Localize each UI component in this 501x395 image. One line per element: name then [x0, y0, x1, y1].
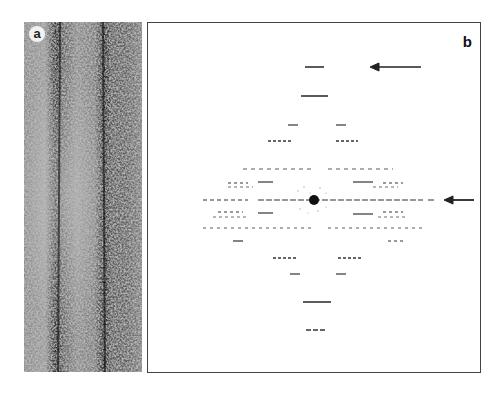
micrograph-image — [24, 22, 142, 372]
diffraction-pattern — [148, 23, 480, 372]
micrograph-panel-a: a — [24, 22, 142, 372]
arrow-equator-icon — [444, 196, 474, 204]
panel-label-a: a — [29, 26, 45, 42]
diffraction-panel-b: b — [147, 22, 481, 373]
panel-label-b: b — [463, 33, 472, 50]
arrow-top-icon — [370, 63, 421, 71]
central-beam-spot — [309, 195, 319, 205]
